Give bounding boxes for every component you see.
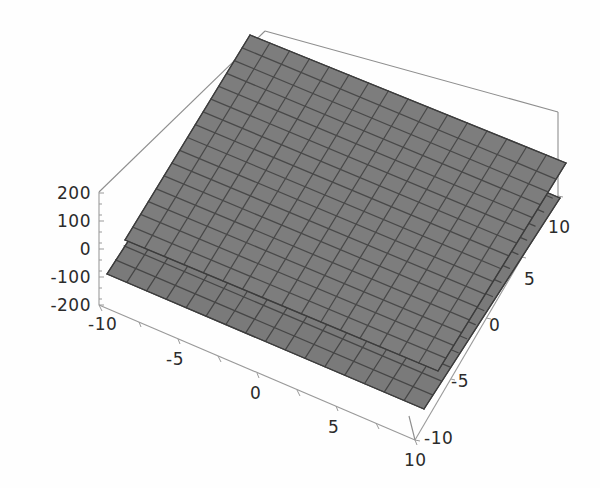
- z-tick-label-200: 200: [57, 183, 91, 203]
- plot-canvas: 200 100 0 -100 -200 -10 -5 0 5 10 10 5 0…: [0, 0, 600, 488]
- x-tick-label-0: 0: [250, 383, 261, 403]
- y-tick-label-0: 0: [489, 315, 500, 335]
- y-tick-label-minus5: -5: [451, 371, 469, 391]
- box-edge-front-vertical: [409, 416, 415, 440]
- z-tick-label-100: 100: [57, 211, 91, 231]
- x-tick-label-minus5: -5: [166, 349, 184, 369]
- z-tick-label-minus200: -200: [50, 295, 91, 315]
- x-tick-label-5: 5: [328, 417, 339, 437]
- x-tick-label-minus10: -10: [88, 314, 117, 334]
- y-tick-label-minus10: -10: [424, 428, 453, 448]
- z-tick-label-minus100: -100: [50, 267, 91, 287]
- z-axis-labels: 200 100 0 -100 -200: [50, 183, 91, 315]
- surface-plot-figure: 200 100 0 -100 -200 -10 -5 0 5 10 10 5 0…: [0, 0, 600, 488]
- y-tick-label-5: 5: [524, 269, 535, 289]
- z-axis-ticks: [99, 193, 104, 305]
- x-tick-label-10: 10: [404, 450, 427, 470]
- y-tick-label-10: 10: [548, 217, 571, 237]
- z-tick-label-0: 0: [80, 239, 91, 259]
